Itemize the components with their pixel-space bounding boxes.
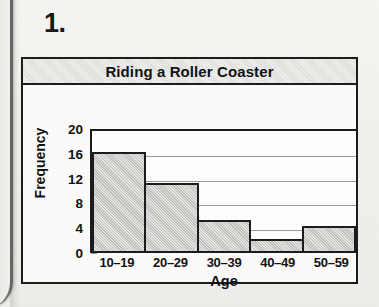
y-axis-tick-label: 16 xyxy=(68,146,83,161)
chart-title-band: Riding a Roller Coaster xyxy=(23,59,356,85)
y-axis-tick-label: 4 xyxy=(75,221,83,236)
x-axis-label: Age xyxy=(90,273,358,289)
histogram-bar xyxy=(92,152,146,251)
y-axis-label-text: Frequency xyxy=(32,128,48,199)
question-number: 1. xyxy=(44,8,66,39)
histogram-figure: Riding a Roller Coaster Frequency 048121… xyxy=(21,57,358,284)
histogram-bar xyxy=(302,226,356,251)
y-axis-ticks: 048121620 xyxy=(49,129,87,253)
x-axis-tick-label: 10–19 xyxy=(90,255,144,270)
histogram-bar xyxy=(144,183,198,251)
plot-area xyxy=(90,129,358,253)
histogram-bar xyxy=(197,220,251,251)
histogram-bar xyxy=(249,239,303,251)
bar-series xyxy=(92,131,356,251)
y-axis-label: Frequency xyxy=(29,103,51,223)
x-axis-tick-label: 30–39 xyxy=(197,255,251,270)
x-axis-tick-label: 20–29 xyxy=(144,255,198,270)
x-axis-tick-label: 40–49 xyxy=(251,255,305,270)
plot-region: Frequency 048121620 10–1920–2930–3940–49… xyxy=(23,85,356,284)
y-axis-tick-label: 20 xyxy=(68,122,83,137)
x-axis-tick-label: 50–59 xyxy=(304,255,358,270)
worksheet-page: 1. Riding a Roller Coaster Frequency 048… xyxy=(0,0,379,307)
y-axis-tick-label: 12 xyxy=(68,171,83,186)
y-axis-tick-label: 0 xyxy=(75,246,83,261)
x-axis-tick-labels: 10–1920–2930–3940–4950–59 xyxy=(90,255,358,270)
y-axis-tick-label: 8 xyxy=(75,196,83,211)
chart-title: Riding a Roller Coaster xyxy=(105,63,273,80)
page-edge-shadow xyxy=(10,0,20,307)
